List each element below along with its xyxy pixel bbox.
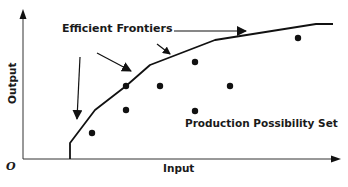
data-point — [123, 107, 129, 113]
data-point — [123, 83, 129, 89]
arrow-icon — [157, 44, 170, 54]
data-point — [89, 130, 95, 136]
y-axis-label: Output — [6, 64, 18, 104]
origin-label: O — [6, 160, 16, 173]
x-axis-arrow-icon — [331, 156, 341, 163]
dea-frontier-diagram — [0, 0, 348, 187]
data-point — [192, 59, 198, 65]
arrow-icon — [97, 53, 131, 71]
annotation-arrows — [77, 31, 246, 119]
efficient-frontier-line — [70, 24, 333, 159]
x-axis-label: Input — [163, 162, 194, 174]
arrow-icon — [77, 57, 80, 119]
data-point — [157, 83, 163, 89]
efficient-frontiers-label: Efficient Frontiers — [62, 22, 173, 35]
y-axis-arrow-icon — [20, 9, 27, 19]
data-point — [227, 83, 233, 89]
data-point — [192, 108, 198, 114]
data-point — [295, 35, 301, 41]
production-possibility-set-label: Production Possibility Set — [185, 117, 338, 129]
y-axis — [20, 9, 27, 159]
